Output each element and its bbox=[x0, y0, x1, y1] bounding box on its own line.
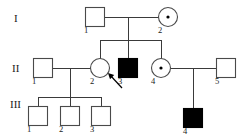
symbol-square-I-1 bbox=[86, 8, 105, 27]
individual-II-2[interactable]: 2 bbox=[90, 59, 110, 87]
individual-number-II-1: 1 bbox=[32, 76, 36, 86]
generation-label-III: III bbox=[10, 98, 21, 110]
individual-number-I-1: 1 bbox=[84, 25, 88, 35]
symbol-square-III-2 bbox=[61, 107, 80, 126]
individual-number-III-2: 2 bbox=[59, 124, 63, 134]
individual-number-II-2: 2 bbox=[90, 76, 94, 86]
individual-III-2[interactable]: 2 bbox=[59, 107, 80, 135]
symbol-square-II-5 bbox=[217, 59, 236, 78]
individual-II-3[interactable]: 3 bbox=[118, 59, 138, 87]
generation-labels-group: IIIIII bbox=[10, 12, 21, 110]
pedigree-diagram: 12123451234 IIIIII bbox=[0, 0, 248, 139]
individual-number-III-1: 1 bbox=[27, 124, 31, 134]
individual-number-I-2: 2 bbox=[158, 25, 162, 35]
individual-number-II-5: 5 bbox=[215, 76, 219, 86]
symbol-square-II-3 bbox=[119, 59, 138, 78]
pedigree-chart: 12123451234 IIIIII bbox=[0, 0, 248, 139]
generation-label-II: II bbox=[12, 62, 20, 74]
individual-I-1[interactable]: 1 bbox=[84, 8, 105, 36]
symbol-square-III-3 bbox=[92, 107, 111, 126]
individual-III-4[interactable]: 4 bbox=[183, 109, 203, 137]
symbol-circle-II-2 bbox=[91, 59, 110, 78]
individual-III-1[interactable]: 1 bbox=[27, 107, 48, 135]
individual-III-3[interactable]: 3 bbox=[90, 107, 111, 135]
symbol-square-III-1 bbox=[29, 107, 48, 126]
generation-label-I: I bbox=[14, 12, 18, 24]
individual-II-4[interactable]: 4 bbox=[151, 59, 171, 87]
individual-symbols-group: 12123451234 bbox=[27, 8, 236, 137]
symbol-square-II-1 bbox=[34, 59, 53, 78]
individual-II-1[interactable]: 1 bbox=[32, 59, 53, 87]
symbol-square-III-4 bbox=[184, 109, 203, 128]
individual-I-2[interactable]: 2 bbox=[158, 8, 178, 36]
individual-number-II-4: 4 bbox=[151, 76, 156, 86]
carrier-dot-I-2 bbox=[166, 15, 169, 18]
individual-II-5[interactable]: 5 bbox=[215, 59, 236, 87]
carrier-dot-II-4 bbox=[159, 66, 162, 69]
individual-number-III-3: 3 bbox=[90, 124, 94, 134]
